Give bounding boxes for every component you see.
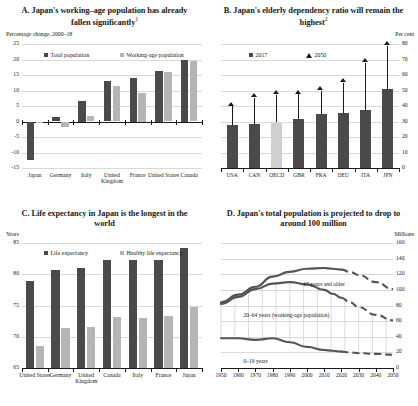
panel-a: A. Japan's working–age population has al… [0,0,209,203]
gridline [221,60,399,61]
y-axis-tick-label: 25 [3,41,19,47]
legend-swatch [44,53,48,57]
panel-d-title: D. Japan's total population is projected… [209,203,418,229]
gridline [22,243,202,244]
arrow-stem-deu [343,83,344,114]
marker-2050-oecd [273,90,279,94]
bar-deu [338,113,349,168]
y-axis-tick-label: 80 [3,271,19,277]
panel-b-title-footnote: 2 [325,16,328,22]
x-axis-tick [324,368,325,372]
marker-2050-ita [362,58,368,62]
x-axis-line [22,368,202,369]
x-axis-label: Canada [173,172,205,178]
y-axis-tick-label: 0 [402,165,418,171]
x-axis-tick [376,368,377,372]
x-axis-label: 2000 [298,373,316,379]
x-axis-tick [266,168,267,172]
y-axis-tick-label: 40 [396,334,412,340]
x-axis-tick [151,120,152,125]
x-axis-label: 2030 [350,373,368,379]
annotation-0-19-years: 0–19 years [243,358,267,364]
x-axis-label: Japan [173,372,205,378]
x-axis-tick [273,368,274,372]
panel-a-plot: -15-10-50510152025JapanGermanyItalyUnite… [22,44,202,168]
marker-2050-fra [317,86,323,90]
bar-united-kingdom-s1 [113,86,121,121]
bar-canada-s0 [181,60,189,122]
bar-united-kingdom-s0 [104,81,112,121]
gridline [22,306,202,307]
bar-france-s0 [154,260,162,368]
panel-c-axis-unit: Years [6,231,19,237]
bar-gbr [293,119,304,168]
arrow-stem-jpn [387,46,388,90]
legend-swatch [44,251,48,255]
legend-life-expectancy: Life expectancy [44,250,88,256]
panel-b-title-text: B. Japan's elderly dependency ratio will… [224,6,403,27]
gridline [221,137,399,138]
marker-2050-deu [340,78,346,82]
y-axis-tick-label: 0 [396,365,412,371]
x-axis-label: USA [221,173,243,179]
curve-dashed-1 [341,298,393,321]
bar-france-s1 [138,93,146,122]
marker-2050-jpn [384,41,390,45]
arrow-stem-usa [232,106,233,125]
x-axis-label: GBR [288,173,310,179]
x-axis-tick [243,168,244,172]
x-axis-tick [238,368,239,372]
arrow-stem-ita [365,63,366,110]
x-axis-tick [332,168,333,172]
gridline [22,168,202,169]
y-axis-tick-label: 80 [396,303,412,309]
curve-dashed-0 [341,270,393,290]
legend-working-age-population: Working-age population [120,52,184,58]
legend-label: 2017 [256,52,268,58]
gridline [221,106,399,107]
x-axis-tick [221,368,222,372]
x-axis-tick [341,368,342,372]
curve-dashed-2 [341,352,393,355]
bar-united-kingdom-s1 [87,327,95,368]
x-axis-tick [307,368,308,372]
bar-united-states-s0 [155,71,163,122]
y-axis-tick-label: 160 [396,240,412,246]
x-axis-label: 1950 [212,373,230,379]
panel-c: C. Life expectancy in Japan is the longe… [0,203,209,406]
bar-italy-s0 [129,260,137,368]
y-axis-tick-label: 0 [3,119,19,125]
legend-label: Total population [51,52,90,58]
bar-italy-s1 [87,116,95,121]
y-axis-tick-label: 120 [396,271,412,277]
panel-a-title-footnote: 1 [135,16,138,22]
legend-2050: 2050 [306,52,326,58]
x-axis-tick [399,168,400,172]
gridline [221,75,399,76]
marker-2050-gbr [295,90,301,94]
x-axis-tick [377,168,378,172]
x-axis-tick [393,368,394,372]
x-axis-label: DEU [332,173,354,179]
x-axis-tick [310,168,311,172]
bar-united-states-s0 [26,281,34,368]
bar-italy-s0 [78,101,86,122]
x-axis-label: 2040 [367,373,385,379]
y-axis-tick-label: 20 [396,349,412,355]
y-axis-tick-label: 80 [402,41,418,47]
x-axis-label: CAN [243,173,265,179]
panel-c-title: C. Life expectancy in Japan is the longe… [0,203,209,229]
legend-label: Working-age population [127,52,184,58]
x-axis-label: JPN [377,173,399,179]
panel-d-axis-unit: Millions [394,231,414,237]
legend-label: Healthy life expectancy [127,250,183,256]
y-axis-tick-label: 60 [396,318,412,324]
y-axis-tick-label: -10 [3,150,19,156]
gridline [22,44,202,45]
bar-oecd [271,123,282,168]
x-axis-tick [202,120,203,125]
x-axis-label: 1970 [246,373,264,379]
x-axis-tick [255,368,256,372]
annotation-65-and-older: 65 years and older [304,281,345,287]
bar-usa [227,125,238,168]
